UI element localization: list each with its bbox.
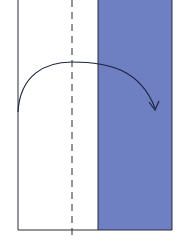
fold-diagram — [0, 0, 191, 241]
blue-panel — [98, 0, 172, 230]
white-panel — [18, 0, 98, 230]
